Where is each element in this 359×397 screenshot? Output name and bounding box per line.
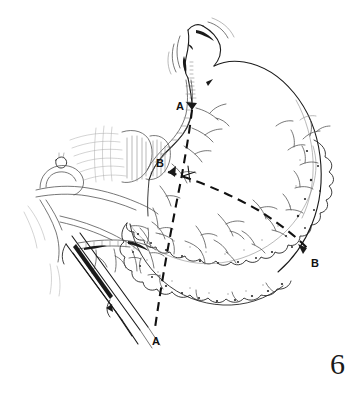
resection-line-a-a <box>155 110 192 328</box>
label-b-right: B <box>311 258 319 269</box>
arrowhead-b-left <box>168 166 176 177</box>
figure-container: .ln { fill:none; stroke:#1a1a1a; stroke-… <box>0 0 359 397</box>
label-b-left: B <box>156 158 164 169</box>
arrowhead-a-top <box>186 102 197 110</box>
resection-lines-group <box>155 102 307 328</box>
stomach-outline <box>148 61 322 272</box>
label-a-top: A <box>176 101 184 112</box>
surgical-illustration: .ln { fill:none; stroke:#1a1a1a; stroke-… <box>0 0 359 397</box>
esophagus-group <box>168 18 234 98</box>
gastric-wall-vessels <box>153 104 316 248</box>
greater-omentum <box>120 119 334 305</box>
surgical-clamp <box>62 233 160 348</box>
figure-number: 6 <box>330 349 345 379</box>
omental-vessels <box>129 119 330 301</box>
label-a-bottom: A <box>152 336 160 347</box>
omentum-stipple <box>132 150 321 302</box>
